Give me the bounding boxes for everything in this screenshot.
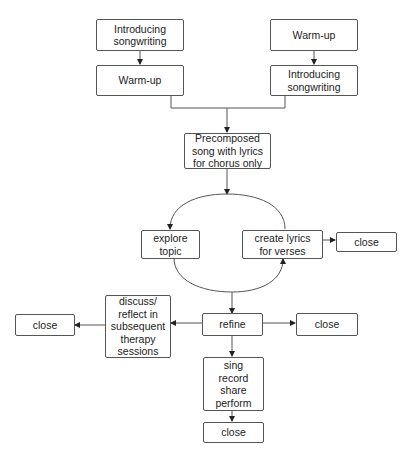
node-precomposed-song: Precomposed song with lyrics for chorus … xyxy=(184,133,271,169)
node-warm-up-left: Warm-up xyxy=(96,65,184,96)
node-close-after-create: close xyxy=(336,232,397,252)
node-create-lyrics: create lyrics for verses xyxy=(242,230,323,259)
node-sing-record-share-perform: sing record share perform xyxy=(203,357,264,411)
node-close-after-sing: close xyxy=(203,422,264,443)
node-explore-topic: explore topic xyxy=(141,230,200,259)
node-discuss-reflect: discuss/ reflect in subsequent therapy s… xyxy=(105,295,171,358)
node-refine: refine xyxy=(202,313,263,336)
node-close-after-discuss: close xyxy=(15,314,75,336)
node-close-after-refine: close xyxy=(296,313,358,336)
node-warm-up-right: Warm-up xyxy=(270,19,358,51)
node-introducing-songwriting-right: Introducing songwriting xyxy=(270,65,358,96)
node-introducing-songwriting-left: Introducing songwriting xyxy=(96,19,184,51)
